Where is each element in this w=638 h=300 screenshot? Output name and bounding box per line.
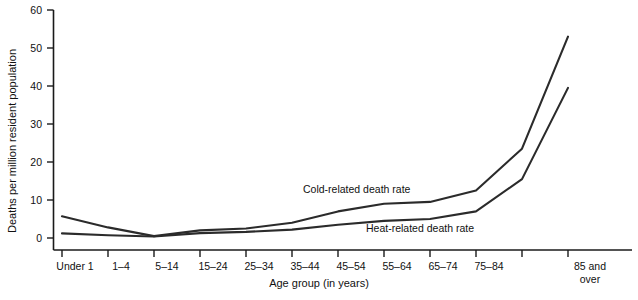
x-tick-label-85-and-over-line2: over [580,273,601,285]
y-tick-label-0: 0 [36,232,42,244]
heat-related-death-rate-label: Heat-related death rate [366,222,474,234]
x-tick-label-25-34: 25–34 [244,260,273,272]
x-tick-label-1-4: 1–4 [112,260,130,272]
y-axis-title: Deaths per million resident population [6,49,18,233]
x-axis-ticks [62,250,568,257]
y-tick-label-50: 50 [30,42,42,54]
line-chart: 60 50 40 30 20 10 0 Deaths per million r… [0,0,638,300]
y-tick-label-40: 40 [30,80,42,92]
x-tick-label-5-14: 5–14 [155,260,179,272]
x-tick-label-75-84: 75–84 [474,260,503,272]
y-tick-label-20: 20 [30,156,42,168]
heat-related-death-rate-line [62,88,568,237]
cold-related-death-rate-line [62,37,568,237]
x-tick-label-65-74: 65–74 [428,260,457,272]
x-tick-label-45-54: 45–54 [336,260,365,272]
x-tick-label-85-and-over-line1: 85 and [574,260,606,272]
y-axis-ticks [47,10,54,238]
cold-related-death-rate-label: Cold-related death rate [303,183,411,195]
y-tick-label-10: 10 [30,194,42,206]
x-tick-label-15-24: 15–24 [198,260,227,272]
x-tick-label-under-1: Under 1 [56,260,94,272]
x-tick-label-55-64: 55–64 [382,260,411,272]
y-tick-label-30: 30 [30,118,42,130]
x-tick-label-35-44: 35–44 [290,260,319,272]
x-axis-title: Age group (in years) [269,277,369,289]
chart-figure: 60 50 40 30 20 10 0 Deaths per million r… [0,0,638,300]
y-tick-label-60: 60 [30,4,42,16]
